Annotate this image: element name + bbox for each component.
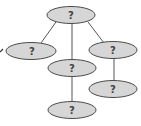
node-label: ? [29, 46, 35, 57]
edge-root-right [88, 22, 104, 43]
node-label: ? [110, 84, 116, 95]
node-label: ? [68, 10, 74, 21]
node-label: ? [110, 45, 116, 56]
node-label: ? [69, 105, 75, 116]
node-middle-child: ? [48, 102, 96, 119]
edge-fragment [0, 49, 3, 52]
node-root: ? [47, 7, 95, 24]
edge-root-left [41, 22, 56, 43]
tree-diagram: ? ? ? ? ? ? [0, 0, 141, 126]
node-middle: ? [48, 60, 96, 77]
node-right-child: ? [89, 81, 137, 98]
node-label: ? [69, 63, 75, 74]
node-left: ? [6, 43, 56, 60]
node-right: ? [89, 42, 137, 59]
